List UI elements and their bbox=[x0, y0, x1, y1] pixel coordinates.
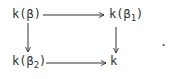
arrows-layer bbox=[0, 0, 170, 79]
